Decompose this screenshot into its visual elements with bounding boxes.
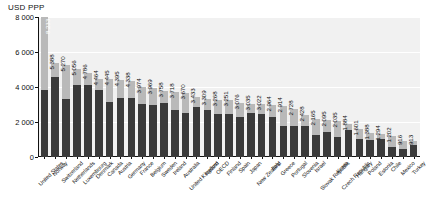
category-slot: Canada [104, 159, 115, 221]
stacked-bar[interactable]: 4 395 [117, 80, 125, 157]
stacked-bar[interactable]: 2 428 [301, 115, 309, 157]
stacked-bar[interactable]: 4 445 [106, 79, 114, 157]
category-slot: Hungary [354, 159, 365, 221]
bar-slot[interactable]: 3 022 [256, 17, 267, 157]
stacked-bar[interactable]: 913 [410, 141, 418, 157]
bar-segment-public [214, 114, 222, 157]
bar-value-label: 4 445 [103, 71, 110, 86]
category-slot: Czech Republic [343, 159, 354, 221]
bar-slot[interactable]: 2 728 [289, 17, 300, 157]
bar-slot[interactable]: 3 268 [213, 17, 224, 157]
bar-slot[interactable]: 2 165 [310, 17, 321, 157]
stacked-bar[interactable]: 3 251 [225, 100, 233, 157]
bar-slot[interactable]: 4 786 [82, 17, 93, 157]
y-tick-label: 8 000 [15, 13, 34, 22]
bar-slot[interactable]: 4 445 [104, 17, 115, 157]
stacked-bar[interactable]: 2 728 [290, 109, 298, 157]
stacked-bar[interactable]: 3 309 [204, 99, 212, 157]
category-slot: Japan [245, 159, 256, 221]
bar-slot[interactable]: 1 884 [343, 17, 354, 157]
stacked-bar[interactable]: 3 022 [258, 104, 266, 157]
bar-value-label: 3 670 [179, 84, 186, 99]
bar-slot[interactable]: 2 428 [300, 17, 311, 157]
stacked-bar[interactable]: 3 076 [236, 103, 244, 157]
stacked-bar[interactable]: 3 433 [193, 97, 201, 157]
bar-slot[interactable]: 5 388 [50, 17, 61, 157]
bar-value-label: 2 095 [320, 112, 327, 127]
bar-slot[interactable]: 8 233 [39, 17, 50, 157]
bar-slot[interactable]: 3 035 [245, 17, 256, 157]
bar-segment-public [41, 90, 49, 157]
stacked-bar[interactable]: 4 464 [95, 79, 103, 157]
category-slot: Slovak Republic [321, 159, 332, 221]
bar-slot[interactable]: 913 [408, 17, 419, 157]
stacked-bar[interactable]: 4 786 [84, 73, 92, 157]
stacked-bar[interactable]: 2 095 [323, 120, 331, 157]
bar-segment-public [247, 113, 255, 157]
category-slot: Spain [234, 159, 245, 221]
bar-slot[interactable]: 3 670 [180, 17, 191, 157]
stacked-bar[interactable]: 3 268 [214, 100, 222, 157]
bar-slot[interactable]: 3 251 [224, 17, 235, 157]
category-slot: Portugal [289, 159, 300, 221]
bar-value-label: 3 268 [211, 91, 218, 106]
category-slot: Slovenia [300, 159, 311, 221]
stacked-bar[interactable]: 3 758 [160, 91, 168, 157]
bar-slot[interactable]: 5 056 [72, 17, 83, 157]
bar-slot[interactable]: 5 270 [61, 17, 72, 157]
stacked-bar[interactable]: 1 202 [388, 136, 396, 157]
bar-slot[interactable]: 3 433 [191, 17, 202, 157]
category-slot: Denmark [93, 159, 104, 221]
stacked-bar[interactable]: 3 718 [171, 92, 179, 157]
stacked-bar[interactable]: 5 056 [73, 69, 81, 157]
stacked-bar[interactable]: 3 974 [138, 87, 146, 157]
bar-value-label: 3 974 [135, 79, 142, 94]
stacked-bar[interactable]: 4 338 [128, 81, 136, 157]
bar-slot[interactable]: 2 095 [321, 17, 332, 157]
bar-slot[interactable]: 2 914 [278, 17, 289, 157]
stacked-bar[interactable]: 2 165 [312, 119, 320, 157]
stacked-bar[interactable]: 1 601 [356, 129, 364, 157]
bar-value-label: 2 428 [298, 106, 305, 121]
category-slot: Chile [387, 159, 398, 221]
category-slot: OECD [213, 159, 224, 221]
stacked-bar[interactable]: 3 969 [149, 88, 157, 157]
bar-slot[interactable]: 3 076 [234, 17, 245, 157]
category-slot: New Zealand [256, 159, 267, 221]
stacked-bar[interactable]: 1 294 [377, 134, 385, 157]
stacked-bar[interactable]: 3 035 [247, 104, 255, 157]
bar-segment-public [323, 132, 331, 157]
bar-value-label: 5 270 [59, 56, 66, 71]
bar-slot[interactable]: 4 464 [93, 17, 104, 157]
category-slot: Italy [267, 159, 278, 221]
stacked-bar[interactable]: 2 914 [280, 106, 288, 157]
bar-segment-public [356, 139, 364, 157]
stacked-bar[interactable]: 1 388 [366, 133, 374, 157]
category-slot: Israel [310, 159, 321, 221]
bar-slot[interactable]: 3 309 [202, 17, 213, 157]
stacked-bar[interactable]: 2 964 [269, 105, 277, 157]
bar-value-label: 4 338 [124, 73, 131, 88]
stacked-bar[interactable]: 5 388 [51, 63, 59, 157]
bar-value-label: 5 388 [48, 54, 55, 69]
bar-segment-public [236, 117, 244, 157]
bar-segment-public [377, 139, 385, 157]
bar-slot[interactable]: 2 964 [267, 17, 278, 157]
bar-series: 8 2335 3885 2705 0564 7864 4644 4454 395… [38, 17, 420, 157]
category-slot: Greece [278, 159, 289, 221]
bar-value-label: 2 964 [265, 97, 272, 112]
bar-value-label: 3 758 [157, 83, 164, 98]
bar-value-label: 5 056 [70, 60, 77, 75]
category-slot: Sweden [158, 159, 169, 221]
bar-slot[interactable]: 2 035 [332, 17, 343, 157]
y-axis-unit-label: USD PPP [8, 3, 45, 12]
stacked-bar[interactable]: 916 [399, 141, 407, 157]
category-slot: Ireland [169, 159, 180, 221]
bar-value-label: 3 022 [255, 96, 262, 111]
bar-value-label: 1 601 [352, 120, 359, 135]
stacked-bar[interactable]: 8 233 [41, 17, 49, 157]
category-slot: Iceland [202, 159, 213, 221]
bar-value-label: 1 294 [374, 126, 381, 141]
stacked-bar[interactable]: 5 270 [62, 65, 70, 157]
